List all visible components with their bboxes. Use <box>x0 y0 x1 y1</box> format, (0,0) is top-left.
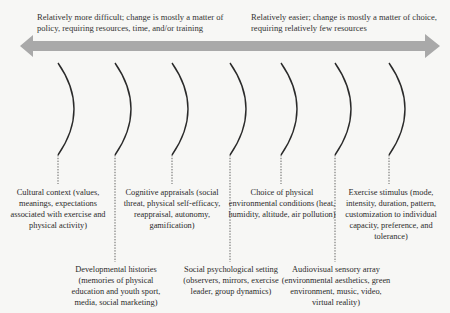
bracket-6 <box>335 63 351 155</box>
factor-label-audiovisual-array: Audiovisual sensory array (environmental… <box>280 264 392 308</box>
bracket-1 <box>58 63 74 155</box>
bracket-2 <box>115 63 131 155</box>
factor-label-physical-environment: Choice of physical environmental conditi… <box>228 187 336 220</box>
bracket-7 <box>389 63 405 155</box>
difficulty-continuum-arrow <box>20 34 440 58</box>
factor-label-cultural-context: Cultural context (values, meanings, expe… <box>8 187 108 231</box>
factor-label-social-psychological-setting: Social psychological setting (observers,… <box>181 264 281 297</box>
factor-label-developmental-histories: Developmental histories (memories of phy… <box>62 264 170 308</box>
brackets <box>58 63 351 155</box>
bracket-3 <box>172 63 188 155</box>
factor-label-exercise-stimulus: Exercise stimulus (mode, intensity, dura… <box>337 187 445 242</box>
double-arrow-icon <box>20 34 440 58</box>
bracket-5 <box>281 63 297 155</box>
factor-label-cognitive-appraisals: Cognitive appraisals (social threat, phy… <box>118 187 226 231</box>
bracket-4 <box>230 63 246 155</box>
